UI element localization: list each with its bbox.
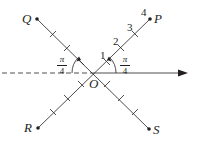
label-p: P bbox=[154, 12, 162, 25]
scale-label-2: 2 bbox=[113, 36, 119, 47]
label-origin: O bbox=[89, 77, 98, 90]
angle-label-right: π 4 bbox=[120, 55, 130, 76]
scale-label-3: 3 bbox=[127, 22, 133, 33]
point-p-dot bbox=[148, 17, 152, 21]
point-r-dot bbox=[36, 126, 40, 130]
point-q-dot bbox=[35, 17, 39, 21]
polar-diagram: Q P R S O 1 2 3 4 π 4 π 4 bbox=[0, 0, 202, 146]
angle-label-left: π 4 bbox=[57, 55, 67, 76]
scale-label-1: 1 bbox=[100, 50, 106, 61]
scale-label-4: 4 bbox=[141, 7, 147, 18]
label-r: R bbox=[24, 121, 32, 134]
label-q: Q bbox=[22, 12, 31, 25]
label-s: S bbox=[153, 123, 160, 136]
axis-arrowhead-icon bbox=[178, 70, 188, 77]
point-s-dot bbox=[147, 127, 151, 131]
line-r-p bbox=[38, 19, 150, 128]
